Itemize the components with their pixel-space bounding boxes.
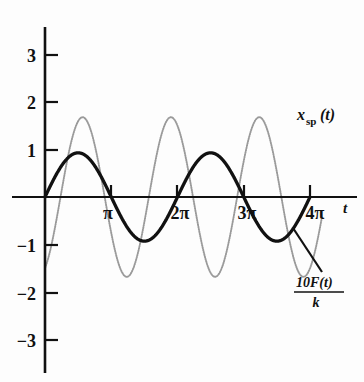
x-tick-label-pi: π [103,203,113,223]
annotation-x-sp-tail: (t) [320,106,335,124]
y-tick-label-1: 1 [27,141,36,161]
plot-svg: 3 2 1 −1 −2 −3 π 2π 3π 4π t x sp (t) 10F… [0,0,364,382]
y-tick-label-2: 2 [27,93,36,113]
annotation-x-sp-main: x [296,106,305,123]
y-tick-label-neg1: −1 [17,236,36,256]
annotation-force-denominator: k [313,295,320,310]
figure-container: 3 2 1 −1 −2 −3 π 2π 3π 4π t x sp (t) 10F… [0,0,364,382]
x-tick-label-3pi: 3π [238,203,257,223]
annotation-x-sp-subscript: sp [306,115,316,127]
x-tick-label-4pi: 4π [306,203,325,223]
y-tick-label-neg2: −2 [17,284,36,304]
y-tick-label-neg3: −3 [17,331,36,351]
annotation-force-numerator: 10F(t) [296,275,333,291]
x-tick-label-2pi: 2π [171,203,190,223]
y-tick-label-3: 3 [27,46,36,66]
